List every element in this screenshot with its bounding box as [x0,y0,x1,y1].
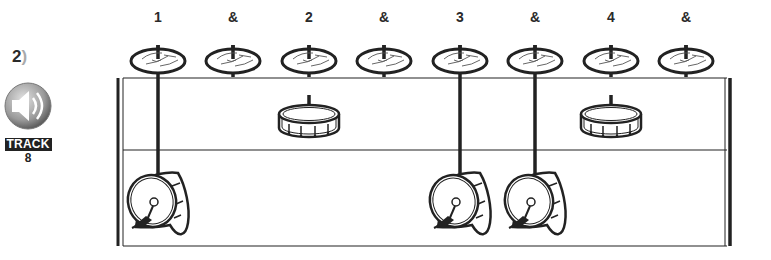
cymbal-icon [659,45,713,77]
staff [118,78,730,246]
cymbal-icon [206,45,260,77]
bass-drum-icon [499,162,565,234]
cymbal-icon [433,45,487,77]
drum-notation [0,0,771,260]
bass-row [122,162,565,234]
bass-stems [158,77,535,162]
snare-drum-icon [279,95,339,137]
cymbal-icon [282,45,336,77]
hihat-row [131,45,713,77]
cymbal-icon [131,45,185,77]
cymbal-icon [584,45,638,77]
bass-drum-icon [122,162,188,234]
cymbal-icon [508,45,562,77]
bass-drum-icon [424,162,490,234]
cymbal-icon [357,45,411,77]
snare-drum-icon [581,95,641,137]
